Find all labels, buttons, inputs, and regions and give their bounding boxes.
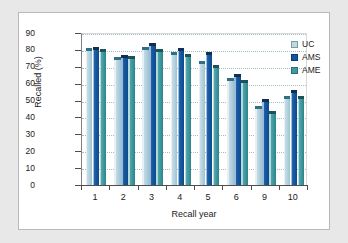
bar-highlight — [269, 114, 271, 185]
legend-label-ams: AMS — [302, 53, 320, 62]
bar-ame-year-9 — [269, 111, 275, 185]
legend-swatch-ame — [291, 67, 298, 74]
bar-ams-year-2 — [121, 55, 127, 185]
y-tick-label: 20 — [0, 147, 35, 156]
gridline — [82, 34, 306, 35]
legend-item-ams: AMS — [291, 52, 335, 63]
bar-uc-year-5 — [199, 61, 205, 185]
legend-swatch-uc — [291, 41, 298, 48]
legend-label-uc: UC — [302, 40, 314, 49]
bar-highlight — [86, 51, 88, 185]
bar-highlight — [93, 50, 95, 185]
bar-highlight — [121, 58, 123, 185]
bar-highlight — [178, 51, 180, 185]
x-tick-mark — [307, 185, 308, 190]
bar-highlight — [171, 55, 173, 185]
legend-swatch-ams — [291, 54, 298, 61]
bar-highlight — [185, 57, 187, 185]
bar-highlight — [255, 109, 257, 185]
y-tick-label: 60 — [0, 79, 35, 88]
x-tick-mark — [109, 185, 110, 190]
x-axis-title: Recall year — [81, 209, 307, 219]
x-tick-label-10: 10 — [276, 192, 310, 202]
bar-ams-year-10 — [291, 90, 297, 185]
bar-highlight — [213, 68, 215, 185]
x-tick-mark — [279, 185, 280, 190]
bar-highlight — [149, 46, 151, 185]
bar-highlight — [227, 81, 229, 185]
bar-highlight — [234, 77, 236, 185]
bar-uc-year-3 — [142, 47, 148, 185]
gridline — [82, 51, 306, 52]
x-tick-mark — [222, 185, 223, 190]
bar-ame-year-1 — [100, 49, 106, 185]
bar-uc-year-6 — [227, 78, 233, 185]
bar-ame-year-6 — [241, 80, 247, 185]
x-tick-mark — [81, 185, 82, 190]
bar-uc-year-10 — [284, 96, 290, 186]
legend-label-ame: AME — [302, 66, 320, 75]
bar-highlight — [199, 64, 201, 185]
bar-highlight — [241, 83, 243, 185]
bar-ams-year-5 — [206, 52, 212, 185]
bar-highlight — [114, 60, 116, 185]
bar-ame-year-5 — [213, 65, 219, 185]
x-tick-mark — [194, 185, 195, 190]
bar-ams-year-1 — [93, 47, 99, 185]
bar-ame-year-3 — [156, 49, 162, 185]
bar-ame-year-10 — [298, 96, 304, 185]
bar-highlight — [100, 52, 102, 185]
bar-ams-year-3 — [149, 43, 155, 185]
y-tick-label: 30 — [0, 130, 35, 139]
y-tick-label: 0 — [0, 181, 35, 190]
y-tick-label: 90 — [0, 29, 35, 38]
y-tick-label: 70 — [0, 62, 35, 71]
legend-item-ame: AME — [291, 65, 335, 76]
legend-item-uc: UC — [291, 39, 335, 50]
chart-figure: Recalled (%) 0102030405060708090 1234569… — [18, 12, 330, 230]
x-tick-mark — [138, 185, 139, 190]
y-tick-label: 80 — [0, 45, 35, 54]
bar-ams-year-6 — [234, 74, 240, 185]
bar-highlight — [142, 50, 144, 185]
bar-highlight — [262, 102, 264, 185]
chart-legend: UC AMS AME — [291, 39, 335, 78]
bar-highlight — [298, 99, 300, 185]
bar-highlight — [206, 55, 208, 185]
x-tick-mark — [251, 185, 252, 190]
bar-highlight — [128, 59, 130, 185]
x-tick-mark — [166, 185, 167, 190]
bar-ame-year-2 — [128, 56, 134, 185]
bar-ams-year-4 — [178, 48, 184, 185]
bar-uc-year-9 — [255, 106, 261, 185]
bar-uc-year-2 — [114, 57, 120, 185]
bar-uc-year-1 — [86, 48, 92, 185]
bar-ams-year-9 — [262, 99, 268, 185]
y-tick-label: 50 — [0, 96, 35, 105]
y-tick-label: 10 — [0, 164, 35, 173]
bar-highlight — [284, 99, 286, 186]
bar-uc-year-4 — [171, 52, 177, 185]
bar-ame-year-4 — [185, 54, 191, 185]
y-tick-label: 40 — [0, 113, 35, 122]
plot-area — [81, 33, 307, 185]
bar-highlight — [156, 52, 158, 185]
bar-highlight — [291, 93, 293, 185]
